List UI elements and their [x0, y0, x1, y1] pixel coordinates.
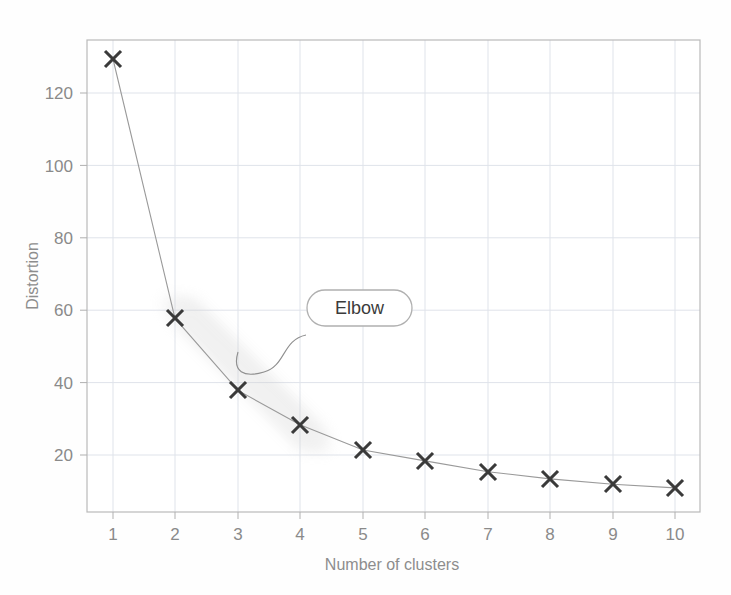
- x-tick-label: 6: [420, 525, 429, 544]
- y-tick-label: 60: [54, 301, 73, 320]
- y-tick-marks: [80, 93, 87, 455]
- x-tick-label: 10: [666, 525, 685, 544]
- x-tick-label: 3: [233, 525, 242, 544]
- x-axis-title: Number of clusters: [325, 556, 459, 573]
- plot-background: [87, 40, 700, 512]
- x-tick-label: 8: [545, 525, 554, 544]
- elbow-method-chart: 20 40 60 80 100 120 1 2 3 4 5 6 7 8 9 10…: [0, 0, 731, 595]
- elbow-callout-label: Elbow: [335, 298, 385, 318]
- y-axis-title: Distortion: [24, 242, 41, 310]
- chart-canvas: 20 40 60 80 100 120 1 2 3 4 5 6 7 8 9 10…: [0, 0, 731, 595]
- y-tick-label: 80: [54, 229, 73, 248]
- x-tick-label: 7: [483, 525, 492, 544]
- x-tick-marks: [113, 512, 675, 519]
- y-tick-label: 40: [54, 374, 73, 393]
- x-tick-label: 1: [108, 525, 117, 544]
- y-tick-label: 100: [45, 157, 73, 176]
- x-tick-label: 5: [358, 525, 367, 544]
- y-tick-labels: 20 40 60 80 100 120: [45, 84, 73, 465]
- y-tick-label: 20: [54, 446, 73, 465]
- x-tick-labels: 1 2 3 4 5 6 7 8 9 10: [108, 525, 684, 544]
- y-tick-label: 120: [45, 84, 73, 103]
- x-tick-label: 2: [170, 525, 179, 544]
- x-tick-label: 9: [608, 525, 617, 544]
- elbow-callout: Elbow: [307, 290, 412, 326]
- x-tick-label: 4: [295, 525, 304, 544]
